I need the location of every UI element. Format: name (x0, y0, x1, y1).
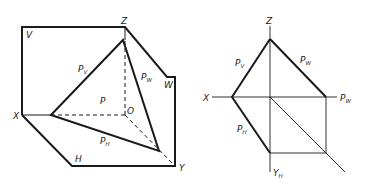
v-plane-outline (22, 27, 175, 166)
label-pw: PW (141, 72, 152, 83)
label-x: X (12, 111, 20, 121)
label-h: H (75, 154, 82, 164)
projection-diagram: Z V PV PW W P O X PH H Y Z PV PW X PW PH… (0, 0, 366, 191)
label-x-right: X (202, 93, 210, 103)
left-axonometric-figure (22, 27, 175, 166)
right-orthographic-figure (212, 26, 345, 172)
label-ph: PH (100, 136, 110, 147)
label-z: Z (120, 16, 128, 26)
label-p: P (100, 96, 106, 106)
label-v: V (26, 30, 33, 40)
label-pv: PV (78, 64, 88, 75)
left-labels: Z V PV PW W P O X PH H Y (12, 16, 186, 173)
label-pw-right: PW (300, 55, 311, 66)
label-o: O (127, 106, 134, 116)
label-pv-right: PV (235, 58, 245, 69)
label-pw-axis: PW (340, 93, 351, 104)
label-w: W (164, 80, 174, 90)
diagonal-45-line (270, 97, 345, 172)
label-y: Y (179, 163, 186, 173)
trace-pw (270, 39, 326, 97)
right-labels: Z PV PW X PW PH YH (202, 16, 351, 179)
label-z-right: Z (265, 16, 273, 26)
label-yh: YH (273, 168, 283, 179)
label-ph-right: PH (237, 124, 247, 135)
traces-pv-ph (232, 39, 270, 153)
